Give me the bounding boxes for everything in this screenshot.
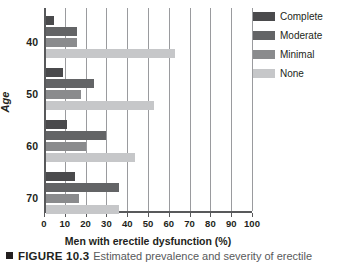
x-tick-40 [127, 213, 128, 217]
figure-caption: FIGURE 10.3 Estimated prevalence and sev… [6, 250, 339, 263]
x-tick-label-70: 70 [184, 218, 195, 229]
legend-item-none[interactable]: None [253, 65, 341, 82]
legend-swatch-icon-complete [253, 12, 275, 21]
x-tick-label-100: 100 [244, 218, 260, 229]
bar-complete-age-50 [46, 68, 63, 77]
x-axis-title: Men with erectile dysfunction (%) [44, 235, 252, 247]
x-tick-label-10: 10 [60, 218, 71, 229]
bar-minimal-age-70 [46, 194, 79, 203]
legend-swatch-icon-none [253, 69, 275, 78]
bar-complete-age-70 [46, 172, 75, 181]
bar-minimal-age-60 [46, 142, 86, 151]
legend-label-complete: Complete [280, 11, 323, 22]
chart-legend: Complete Moderate Minimal None [253, 8, 341, 84]
x-tick-label-90: 90 [226, 218, 237, 229]
bar-moderate-age-50 [46, 79, 94, 88]
x-tick-80 [210, 213, 211, 217]
figure-caption-text: Estimated prevalence and severity of ere… [93, 250, 312, 263]
bar-none-age-60 [46, 153, 135, 162]
y-tick-label-70: 70 [26, 192, 38, 204]
bar-none-age-70 [46, 205, 119, 214]
y-tick-label-50: 50 [26, 88, 38, 100]
square-bullet-icon [6, 252, 13, 259]
bar-none-age-40 [46, 49, 175, 58]
legend-label-moderate: Moderate [280, 30, 322, 41]
x-tick-70 [190, 213, 191, 217]
plot-area: 0 10 20 30 40 50 60 70 80 90 100 [44, 8, 252, 213]
bar-complete-age-60 [46, 120, 67, 129]
y-tick-label-40: 40 [26, 36, 38, 48]
x-tick-90 [231, 213, 232, 217]
legend-item-minimal[interactable]: Minimal [253, 46, 341, 63]
y-axis-title: Age [0, 92, 11, 113]
bar-none-age-50 [46, 101, 154, 110]
x-tick-label-50: 50 [143, 218, 154, 229]
x-tick-label-0: 0 [41, 218, 46, 229]
bar-moderate-age-60 [46, 131, 106, 140]
x-tick-50 [148, 213, 149, 217]
gridline-90 [231, 8, 232, 211]
bar-minimal-age-50 [46, 90, 81, 99]
x-tick-label-80: 80 [205, 218, 216, 229]
gridline-60 [169, 8, 170, 211]
y-tick-label-60: 60 [26, 140, 38, 152]
bar-minimal-age-40 [46, 38, 77, 47]
legend-label-minimal: Minimal [280, 49, 314, 60]
legend-swatch-icon-moderate [253, 31, 275, 40]
x-tick-label-60: 60 [164, 218, 175, 229]
bar-moderate-age-70 [46, 183, 119, 192]
x-tick-label-20: 20 [80, 218, 91, 229]
bar-complete-age-40 [46, 16, 54, 25]
gridline-80 [210, 8, 211, 211]
gridline-70 [190, 8, 191, 211]
x-tick-60 [169, 213, 170, 217]
x-tick-label-40: 40 [122, 218, 133, 229]
figure-number: FIGURE 10.3 [18, 250, 89, 263]
bar-moderate-age-40 [46, 27, 77, 36]
legend-item-complete[interactable]: Complete [253, 8, 341, 25]
x-tick-100 [252, 213, 253, 217]
x-tick-label-30: 30 [101, 218, 112, 229]
legend-item-moderate[interactable]: Moderate [253, 27, 341, 44]
x-tick-0 [44, 213, 45, 217]
figure-container: 40 50 60 70 Age 0 10 20 30 [0, 0, 343, 266]
legend-label-none: None [280, 68, 304, 79]
legend-swatch-icon-minimal [253, 50, 275, 59]
